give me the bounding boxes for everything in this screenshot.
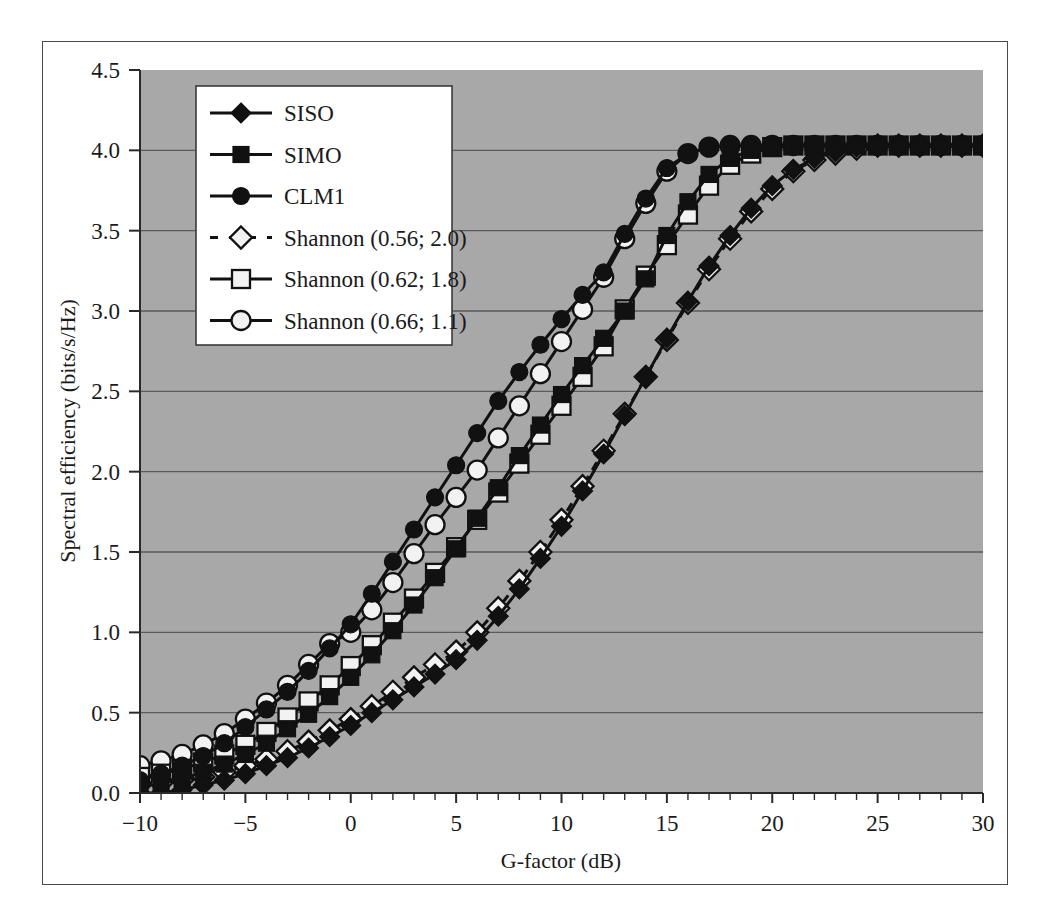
x-tick-label: −5 (233, 811, 257, 836)
data-marker-filled-circle (511, 364, 528, 381)
data-marker-filled-circle (300, 662, 317, 679)
x-axis-title: G-factor (dB) (501, 848, 621, 873)
x-tick-label: 0 (345, 811, 357, 836)
legend-label: SIMO (284, 143, 342, 168)
y-tick-label: 0.0 (91, 781, 120, 806)
legend-entry[interactable]: Shannon (0.62; 1.8) (210, 267, 467, 292)
x-tick-label: 25 (866, 811, 889, 836)
data-marker-open-circle (510, 396, 529, 415)
data-marker-filled-square (659, 227, 675, 243)
data-marker-filled-circle (616, 225, 633, 242)
data-marker-filled-square (301, 706, 317, 722)
data-marker-filled-circle (490, 392, 507, 409)
x-tick-label: 15 (655, 811, 678, 836)
data-marker-filled-circle (701, 139, 718, 156)
y-tick-label: 1.0 (91, 620, 120, 645)
y-tick-label: 2.5 (91, 379, 120, 404)
data-marker-open-circle (426, 515, 445, 534)
data-marker-filled-circle (342, 616, 359, 633)
data-marker-filled-circle (279, 683, 296, 700)
x-tick-label: 20 (761, 811, 784, 836)
x-tick-label: 30 (972, 811, 995, 836)
data-marker-filled-circle (658, 160, 675, 177)
data-marker-filled-square (258, 735, 274, 751)
data-marker-filled-square (490, 480, 506, 496)
data-marker-filled-circle (427, 489, 444, 506)
data-marker-filled-circle (237, 719, 254, 736)
data-marker-filled-circle (448, 457, 465, 474)
data-marker-filled-square (511, 448, 527, 464)
data-marker-filled-square (280, 721, 296, 737)
data-marker-open-circle (489, 428, 508, 447)
data-marker-filled-square (237, 746, 253, 762)
data-marker-filled-circle (637, 190, 654, 207)
data-marker-filled-square (406, 597, 422, 613)
figure-root: −10−5051015202530 0.00.51.01.52.02.53.03… (0, 0, 1047, 923)
y-tick-label: 1.5 (91, 540, 120, 565)
x-tick-labels: −10−5051015202530 (122, 811, 994, 836)
data-marker-filled-square (722, 150, 738, 166)
y-tick-label: 2.0 (91, 460, 120, 485)
data-marker-filled-circle (553, 311, 570, 328)
data-marker-filled-circle (258, 701, 275, 718)
chart-legend: SISOSIMOCLM1Shannon (0.56; 2.0)Shannon (… (196, 86, 467, 345)
spectral-efficiency-chart: −10−5051015202530 0.00.51.01.52.02.53.03… (0, 0, 1047, 923)
data-marker-filled-square (617, 303, 633, 319)
data-marker-filled-circle (363, 585, 380, 602)
legend-label: SISO (284, 101, 334, 126)
data-marker-filled-square (385, 623, 401, 639)
y-tick-label: 4.0 (91, 138, 120, 163)
data-marker-open-circle (468, 461, 487, 480)
data-marker-open-circle (404, 544, 423, 563)
data-marker-filled-circle (384, 553, 401, 570)
legend-label: CLM1 (284, 184, 345, 209)
data-marker-filled-circle (679, 145, 696, 162)
data-marker-open-circle (383, 573, 402, 592)
data-marker-filled-square (469, 510, 485, 526)
data-marker-filled-square (764, 139, 780, 155)
data-marker-filled-circle (233, 188, 250, 205)
data-marker-filled-square (743, 142, 759, 158)
data-marker-filled-square (575, 358, 591, 374)
data-marker-filled-circle (595, 264, 612, 281)
data-marker-filled-square (532, 417, 548, 433)
y-tick-label: 3.5 (91, 219, 120, 244)
x-tick-label: 10 (550, 811, 573, 836)
y-tick-label: 0.5 (91, 701, 120, 726)
data-marker-filled-square (785, 138, 801, 154)
data-marker-filled-square (427, 570, 443, 586)
x-tick-label: −10 (122, 811, 158, 836)
data-marker-filled-circle (216, 735, 233, 752)
data-marker-open-square (232, 270, 250, 288)
data-marker-filled-square (364, 647, 380, 663)
legend-label: Shannon (0.56; 2.0) (284, 226, 467, 251)
data-marker-filled-circle (195, 748, 212, 765)
data-marker-filled-square (638, 271, 654, 287)
data-marker-filled-square (233, 147, 249, 163)
data-marker-filled-circle (532, 336, 549, 353)
data-marker-filled-square (596, 330, 612, 346)
y-axis-title: Spectral efficiency (bits/s/Hz) (55, 299, 80, 563)
data-marker-filled-square (448, 541, 464, 557)
y-tick-label: 3.0 (91, 299, 120, 324)
x-tick-label: 5 (450, 811, 462, 836)
data-marker-filled-square (343, 669, 359, 685)
data-marker-filled-square (680, 194, 696, 210)
data-marker-filled-square (554, 387, 570, 403)
data-marker-open-circle (531, 364, 550, 383)
data-marker-open-circle (232, 311, 251, 330)
data-marker-open-circle (447, 488, 466, 507)
legend-label: Shannon (0.62; 1.8) (284, 267, 467, 292)
data-marker-filled-circle (321, 640, 338, 657)
data-marker-filled-circle (405, 521, 422, 538)
data-marker-open-circle (552, 332, 571, 351)
legend-label: Shannon (0.66; 1.1) (284, 309, 467, 334)
y-tick-labels: 0.00.51.01.52.02.53.03.54.04.5 (91, 58, 120, 806)
data-marker-filled-square (701, 166, 717, 182)
data-marker-filled-circle (469, 425, 486, 442)
data-marker-filled-circle (574, 286, 591, 303)
y-tick-label: 4.5 (91, 58, 120, 83)
data-marker-filled-square (322, 689, 338, 705)
